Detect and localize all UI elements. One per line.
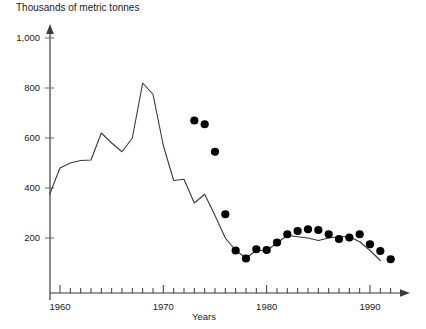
data-point <box>376 247 384 255</box>
chart-title: Thousands of metric tonnes <box>16 2 139 13</box>
x-tick-label: 1970 <box>153 301 174 312</box>
y-axis: 2004006008001,000 <box>16 24 54 300</box>
data-point <box>335 235 343 243</box>
x-axis-arrow-icon <box>400 289 410 297</box>
x-axis: 1960197019801990 <box>49 285 410 312</box>
y-tick-label: 400 <box>24 182 40 193</box>
data-point <box>232 246 240 254</box>
y-tick-label: 1,000 <box>16 32 40 43</box>
y-tick-label: 200 <box>24 232 40 243</box>
data-point <box>366 240 374 248</box>
data-point <box>304 225 312 233</box>
data-point <box>283 230 291 238</box>
data-point <box>221 210 229 218</box>
y-tick-label: 600 <box>24 132 40 143</box>
y-tick-label-group: 2004006008001,000 <box>16 32 40 243</box>
line-chart: Thousands of metric tonnes 2004006008001… <box>0 0 426 329</box>
data-point <box>325 230 333 238</box>
data-point <box>314 226 322 234</box>
x-tick-group <box>60 285 391 293</box>
data-point <box>387 255 395 263</box>
x-tick-label: 1990 <box>359 301 380 312</box>
x-tick-label: 1960 <box>49 301 70 312</box>
chart-container: Thousands of metric tonnes 2004006008001… <box>0 0 426 329</box>
data-point <box>263 246 271 254</box>
data-point <box>273 238 281 246</box>
x-axis-title: Years <box>192 311 216 322</box>
data-point <box>211 148 219 156</box>
data-point <box>356 230 364 238</box>
data-point <box>345 233 353 241</box>
data-point <box>252 245 260 253</box>
x-tick-label: 1980 <box>256 301 277 312</box>
y-tick-label: 800 <box>24 82 40 93</box>
data-point <box>294 227 302 235</box>
scatter-point-group <box>190 116 395 263</box>
data-point <box>201 120 209 128</box>
data-point <box>242 254 250 262</box>
data-point <box>190 116 198 124</box>
y-axis-arrow-icon <box>46 24 54 34</box>
